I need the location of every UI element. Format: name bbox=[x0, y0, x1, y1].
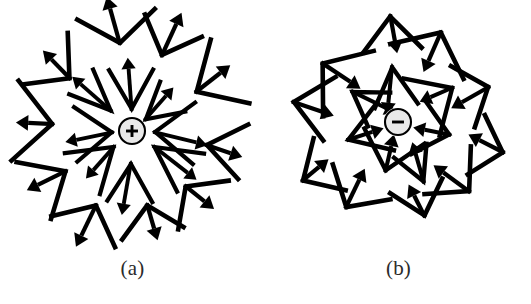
outer-arrow-3 bbox=[205, 145, 242, 161]
field-diagram-positive: + bbox=[0, 0, 265, 262]
outer-chevron-1 bbox=[388, 32, 464, 81]
charge-marker-b: − bbox=[383, 107, 412, 136]
arrow-head bbox=[195, 136, 208, 150]
chevron-stroke bbox=[10, 79, 52, 162]
charge-marker-a: + bbox=[117, 116, 146, 145]
inner-arrow-4 bbox=[117, 162, 131, 215]
outer-chevron-8 bbox=[10, 79, 52, 162]
arrow-shaft bbox=[28, 123, 54, 124]
arrow-head bbox=[117, 203, 131, 215]
panel-a-caption: (a) bbox=[0, 258, 265, 279]
arrow-head bbox=[65, 133, 77, 147]
figure-root: + (a) − (b) bbox=[0, 0, 531, 304]
panel-b: − (b) bbox=[266, 0, 531, 304]
arrow-head bbox=[413, 122, 426, 137]
arrow-head bbox=[121, 58, 135, 70]
arrow-head bbox=[16, 115, 29, 131]
panel-b-caption: (b) bbox=[266, 258, 531, 279]
charge-sign-horizontal-bar bbox=[392, 121, 404, 124]
inner-arrow-7 bbox=[72, 77, 112, 112]
charge-sign-vertical-bar bbox=[131, 125, 134, 137]
chevron-stroke bbox=[388, 32, 464, 81]
outer-arrow-4 bbox=[184, 185, 214, 209]
field-diagram-negative: − bbox=[266, 0, 531, 262]
panel-a: + (a) bbox=[0, 0, 265, 304]
